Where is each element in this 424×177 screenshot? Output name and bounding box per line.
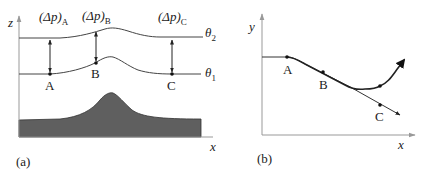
point-a-label: A <box>45 79 54 92</box>
point-c-b <box>378 103 382 107</box>
caption-b: (b) <box>257 152 272 165</box>
theta1-label: θ1 <box>205 66 216 79</box>
point-a-label-b: A <box>283 63 292 76</box>
point-c-label: C <box>167 79 176 92</box>
y-axis-label: y <box>249 20 255 33</box>
delta-p-b-label: (Δp)B <box>82 9 111 22</box>
point-b <box>94 61 98 65</box>
z-axis-label: z <box>8 16 13 29</box>
point-a <box>48 72 52 76</box>
curved-trajectory <box>287 57 404 89</box>
caption-a: (a) <box>16 155 30 168</box>
point-b-b <box>321 70 325 74</box>
figure: z (Δp)A (Δp)B (Δp)C θ2 θ1 A B C x (a) y … <box>0 0 424 177</box>
isentrope-theta1 <box>19 57 201 74</box>
delta-p-c-label: (Δp)C <box>158 10 187 23</box>
theta2-label: θ2 <box>205 26 216 39</box>
point-b-label: B <box>91 67 100 80</box>
terrain-mountain <box>19 93 201 137</box>
point-curve <box>378 84 382 88</box>
x-axis-label-b: x <box>398 138 404 151</box>
panel-a <box>19 16 213 137</box>
point-b-label-b: B <box>319 78 328 91</box>
point-a-b <box>285 55 289 59</box>
point-c <box>170 72 174 76</box>
delta-p-a-label: (Δp)A <box>39 10 68 23</box>
isentrope-theta2 <box>19 28 201 38</box>
x-axis-label-a: x <box>210 140 216 153</box>
point-c-label-b: C <box>375 110 384 123</box>
